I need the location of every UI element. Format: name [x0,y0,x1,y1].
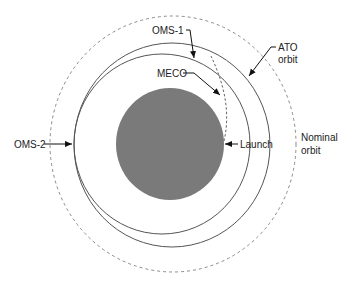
orbit-diagram: OMS-1 MECO ATO orbit Nominal orbit Launc… [0,0,348,292]
label-nominal-line1: Nominal [301,132,338,143]
label-launch: Launch [240,139,273,150]
label-oms2: OMS-2 [14,139,46,150]
label-ato-line2: orbit [278,54,297,65]
ato-arrow [249,47,276,76]
label-nominal-line2: orbit [301,145,320,156]
label-ato-line1: ATO [278,42,298,53]
label-oms1: OMS-1 [152,25,184,36]
earth [116,88,224,200]
label-meco: MECO [157,68,187,79]
